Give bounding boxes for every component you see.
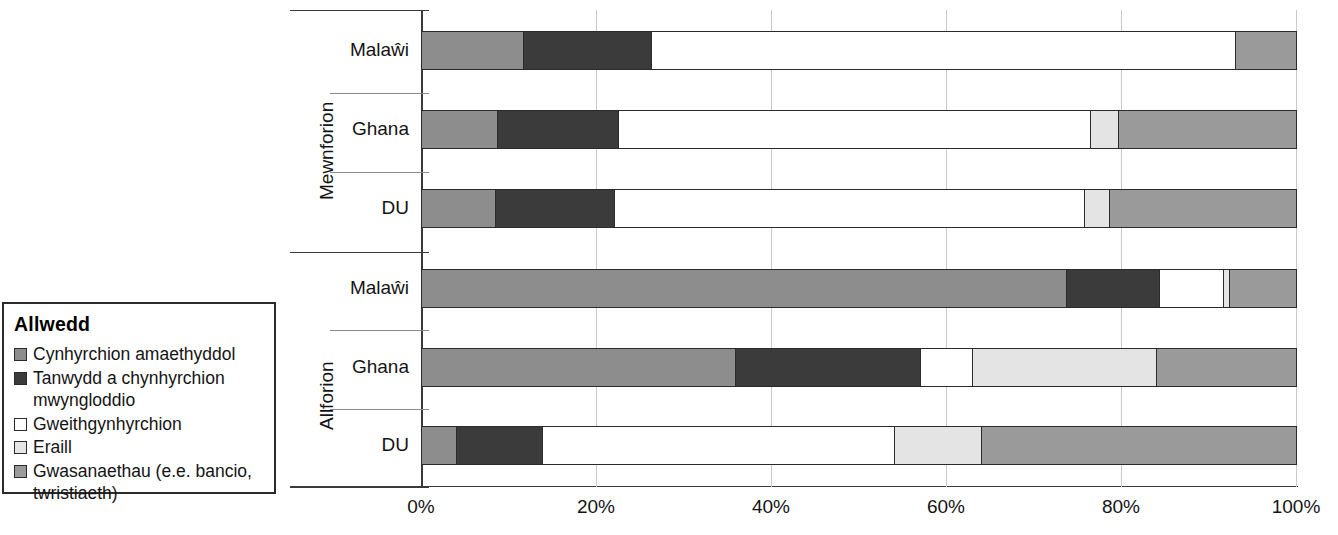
group-label-mewnforion: Mewnforion — [316, 102, 338, 200]
x-tick-0: 0% — [376, 496, 466, 518]
category-label-du: DU — [309, 434, 409, 456]
bar-segment-gweithgynhyrchion — [920, 348, 974, 387]
bar-allforion-du — [421, 426, 1297, 465]
bar-segment-gwasanaethau — [1229, 269, 1297, 308]
bar-segment-tanwydd — [735, 348, 921, 387]
gridline-60 — [946, 10, 947, 487]
bar-segment-gwasanaethau — [1109, 189, 1297, 228]
category-label-malaŵi: Malaŵi — [309, 39, 409, 61]
x-tick-40: 40% — [726, 496, 816, 518]
bar-segment-cynhyrchion — [421, 110, 498, 149]
stacked-bar-chart: MalaŵiGhanaDUMalaŵiGhanaDU MewnforionAll… — [0, 0, 1338, 535]
axis-separator-1 — [330, 93, 429, 94]
category-label-malaŵi: Malaŵi — [309, 277, 409, 299]
bar-segment-cynhyrchion — [421, 269, 1067, 308]
bar-segment-tanwydd — [497, 110, 619, 149]
axis-separator-6 — [290, 487, 429, 488]
bar-segment-eraill — [1090, 110, 1119, 149]
bar-segment-gwasanaethau — [1235, 31, 1297, 70]
bar-segment-gwasanaethau — [981, 426, 1297, 465]
bar-segment-cynhyrchion — [421, 189, 496, 228]
plot-area — [421, 10, 1296, 487]
bar-segment-eraill — [972, 348, 1157, 387]
bar-segment-tanwydd — [456, 426, 543, 465]
axis-separator-4 — [330, 330, 429, 331]
bar-segment-gweithgynhyrchion — [542, 426, 895, 465]
bar-segment-tanwydd — [1066, 269, 1160, 308]
category-label-du: DU — [309, 197, 409, 219]
x-tick-20: 20% — [551, 496, 641, 518]
group-label-allforion: Allforion — [316, 361, 338, 430]
bar-segment-tanwydd — [495, 189, 614, 228]
bar-segment-gwasanaethau — [1118, 110, 1297, 149]
axis-separator-3 — [290, 252, 429, 253]
bar-segment-cynhyrchion — [421, 348, 736, 387]
bar-mewnforion-ghana — [421, 110, 1297, 149]
gridline-20 — [596, 10, 597, 487]
x-tick-100: 100% — [1251, 496, 1338, 518]
x-tick-60: 60% — [901, 496, 991, 518]
bar-allforion-malaŵi — [421, 269, 1297, 308]
bar-segment-gweithgynhyrchion — [614, 189, 1086, 228]
gridline-80 — [1121, 10, 1122, 487]
gridline-40 — [771, 10, 772, 487]
bar-segment-gweithgynhyrchion — [651, 31, 1236, 70]
axis-separator-0 — [290, 10, 429, 11]
bar-segment-gwasanaethau — [1156, 348, 1297, 387]
bar-mewnforion-du — [421, 189, 1297, 228]
bar-segment-eraill — [1084, 189, 1110, 228]
bar-segment-eraill — [894, 426, 983, 465]
axis-separator-2 — [330, 172, 429, 173]
bar-segment-tanwydd — [523, 31, 652, 70]
bar-mewnforion-malaŵi — [421, 31, 1297, 70]
bar-segment-gweithgynhyrchion — [618, 110, 1092, 149]
bar-allforion-ghana — [421, 348, 1297, 387]
x-tick-80: 80% — [1076, 496, 1166, 518]
bar-segment-cynhyrchion — [421, 426, 457, 465]
bar-segment-cynhyrchion — [421, 31, 524, 70]
axis-separator-5 — [330, 409, 429, 410]
bar-segment-gweithgynhyrchion — [1159, 269, 1225, 308]
gridline-100 — [1296, 10, 1297, 487]
